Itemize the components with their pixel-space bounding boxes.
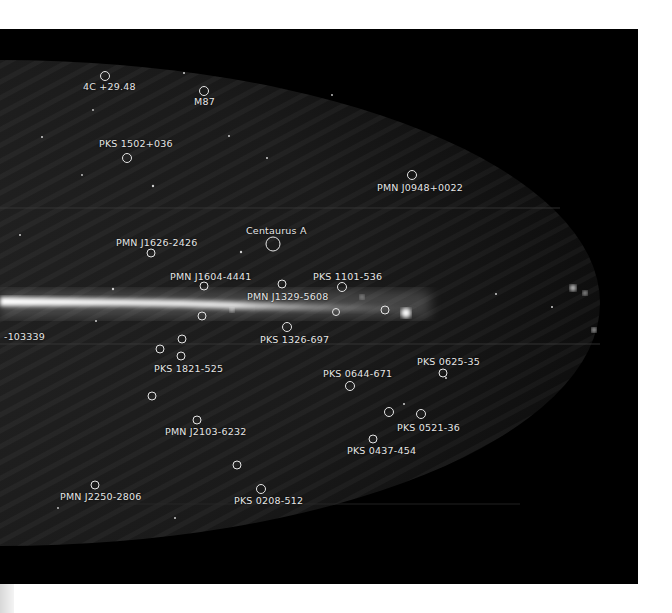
label-pmn-j2103-6232: PMN J2103-6232 (165, 426, 246, 437)
label-pks-1821-525: PKS 1821-525 (154, 363, 223, 374)
label-pmn-j0948-0022: PMN J0948+0022 (377, 182, 463, 193)
label-pks-0208-512: PKS 0208-512 (234, 495, 303, 506)
label-pmn-j1329-5608: PMN J1329-5608 (247, 291, 328, 302)
label-pmn-j1626-2426: PMN J1626-2426 (116, 237, 197, 248)
sky-map-frame: 4C +29.48 M87 PKS 1502+036 PMN J0948+002… (0, 29, 638, 584)
label-pks-1326-697: PKS 1326-697 (260, 334, 329, 345)
label-pks-1502-036: PKS 1502+036 (99, 138, 173, 149)
label-pks-0644-671: PKS 0644-671 (323, 368, 392, 379)
label-pks-0521-36: PKS 0521-36 (397, 422, 460, 433)
label-pks-0437-454: PKS 0437-454 (347, 445, 416, 456)
page-edge (0, 584, 14, 613)
label-pmn-j1604-4441: PMN J1604-4441 (170, 271, 251, 282)
label-pks-0625-35: PKS 0625-35 (417, 356, 480, 367)
label-pks-1101-536: PKS 1101-536 (313, 271, 382, 282)
label-4c-29-48: 4C +29.48 (83, 81, 136, 92)
label-m87: M87 (194, 96, 215, 107)
label-103339: -103339 (4, 331, 45, 342)
label-pmn-j2250-2806: PMN J2250-2806 (60, 491, 141, 502)
label-centaurus-a: Centaurus A (246, 225, 307, 236)
